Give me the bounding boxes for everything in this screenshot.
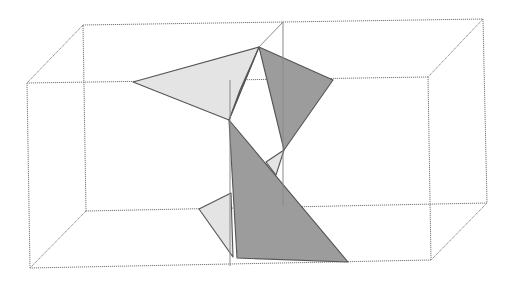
shaded-facets (133, 47, 348, 262)
box-edge (27, 25, 83, 83)
diagram-canvas (0, 0, 513, 283)
box-edge (27, 83, 30, 268)
box-edge (428, 19, 483, 77)
box-edge (483, 19, 487, 203)
box-edge (428, 77, 431, 260)
light-triangle-upper-left (133, 47, 259, 120)
box-edge (30, 211, 86, 268)
box-edge (83, 25, 86, 211)
box-edge (431, 203, 487, 260)
inner-diagonal-top (259, 22, 283, 47)
wireframe-box-diagram (0, 0, 513, 283)
dark-triangle-upper-right (259, 47, 333, 150)
light-triangle-lower-left (199, 193, 233, 257)
